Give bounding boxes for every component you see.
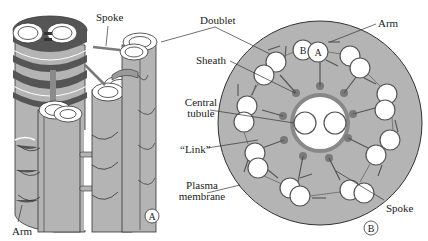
diagram-canvas: A	[0, 0, 428, 241]
panel-a-marker-letter: A	[148, 211, 156, 222]
spoke-a-1	[93, 47, 120, 50]
label-central-tubule-line2: tubule	[180, 108, 222, 119]
tubule-a-letter: A	[314, 47, 322, 58]
panel-a-longitudinal-view: A	[13, 16, 159, 232]
label-arm-b: Arm	[378, 18, 398, 29]
label-arm-a: Arm	[12, 226, 32, 237]
panel-b-marker-letter: B	[368, 223, 375, 234]
label-spoke-b: Spoke	[386, 203, 414, 214]
tubule-b-letter: B	[300, 45, 307, 56]
label-doublet: Doublet	[200, 15, 235, 26]
label-central-tubule: Central tubule	[180, 97, 222, 119]
central-tubule-left	[294, 112, 316, 134]
label-plasma-membrane: Plasma membrane	[178, 180, 226, 202]
label-link: “Link”	[180, 144, 211, 155]
spoke-a-2	[85, 65, 105, 85]
link-gap	[84, 130, 90, 230]
label-spoke-a: Spoke	[96, 12, 124, 23]
label-sheath: Sheath	[196, 55, 226, 66]
axoneme-diagram: A	[0, 0, 428, 241]
central-tubule-right	[324, 112, 346, 134]
label-plasma-line2: membrane	[178, 191, 226, 202]
